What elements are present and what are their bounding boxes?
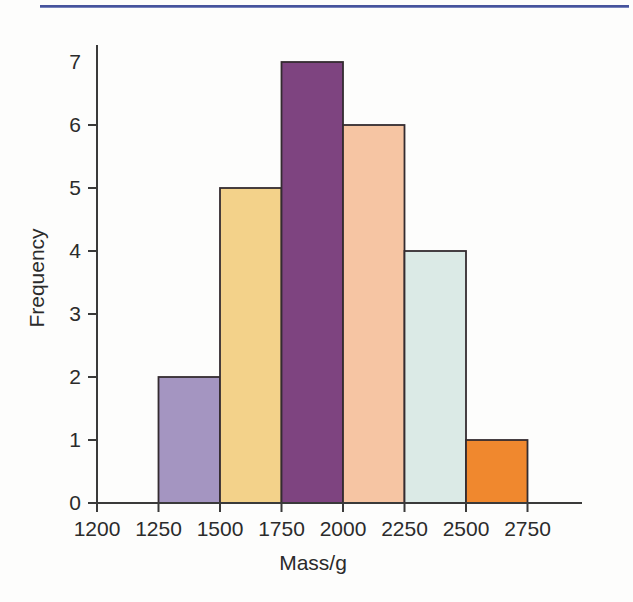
histogram-chart: 0123456712001250150017502000225025002750… (0, 0, 633, 602)
y-tick-label-6: 6 (69, 113, 81, 136)
x-tick-label-2750: 2750 (504, 517, 551, 540)
page: 0123456712001250150017502000225025002750… (0, 0, 633, 602)
x-tick-label-2000: 2000 (320, 517, 367, 540)
x-axis-title: Mass/g (279, 551, 347, 574)
bar-2250-2500 (405, 251, 467, 503)
y-tick-label-1: 1 (69, 428, 81, 451)
x-tick-label-1200: 1200 (74, 517, 121, 540)
y-tick-label-0: 0 (69, 491, 81, 514)
y-tick-label-3: 3 (69, 302, 81, 325)
x-tick-label-1250: 1250 (135, 517, 182, 540)
y-tick-label-4: 4 (69, 239, 81, 262)
bar-2500-2750 (466, 440, 528, 503)
bar-1750-2000 (282, 62, 344, 503)
bars-layer (159, 62, 528, 503)
y-axis-title: Frequency (25, 228, 48, 328)
bar-1250-1500 (159, 377, 221, 503)
x-tick-label-2500: 2500 (443, 517, 490, 540)
y-tick-label-2: 2 (69, 365, 81, 388)
y-tick-label-7: 7 (69, 50, 81, 73)
y-tick-label-5: 5 (69, 176, 81, 199)
x-tick-label-1750: 1750 (258, 517, 305, 540)
x-tick-label-1500: 1500 (197, 517, 244, 540)
bar-1500-1750 (220, 188, 282, 503)
bar-2000-2250 (343, 125, 405, 503)
x-tick-label-2250: 2250 (381, 517, 428, 540)
